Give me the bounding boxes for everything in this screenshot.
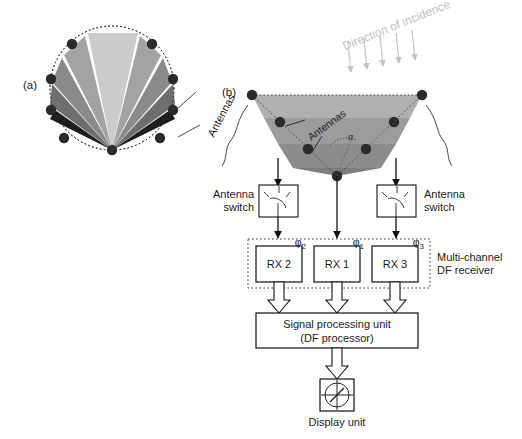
incidence-arrow	[380, 36, 383, 66]
signal-processing-label-line1: Signal processing unit	[256, 318, 418, 331]
antenna-dot	[107, 145, 117, 155]
signal-processing-label-line2: (DF processor)	[256, 332, 418, 345]
receiver-label-rx2: RX 2	[256, 258, 302, 271]
phase-subscript: 3	[419, 242, 423, 251]
incidence-arrow	[412, 30, 415, 60]
processor-to-display-arrow	[326, 348, 348, 379]
phase-subscript: 2	[301, 242, 305, 251]
figure-root: (a) (b) Antennas Antennas Direction of i…	[0, 0, 522, 439]
antenna-dot	[46, 105, 56, 115]
antenna-switch-left-box[interactable]	[259, 185, 298, 217]
antenna-dot	[46, 74, 56, 84]
alpha-angle-label: α	[348, 132, 353, 142]
antenna-dot	[168, 105, 178, 115]
antenna-dot	[303, 144, 313, 154]
antenna-dot	[389, 117, 399, 127]
antenna-dot	[361, 144, 371, 154]
display-unit-graphic[interactable]	[320, 379, 354, 411]
receiver-to-processor-arrows	[268, 282, 406, 313]
block-arrow	[268, 282, 290, 313]
receiver-label-rx3: RX 3	[372, 258, 418, 271]
antenna-switch-right-box[interactable]	[377, 185, 416, 217]
panel-a-tag: (a)	[23, 79, 37, 92]
antenna-switch-right-label: Antenna switch	[424, 188, 465, 213]
panel-a-graphic	[46, 26, 200, 155]
block-arrow	[384, 282, 406, 313]
panel-b-array-graphic	[247, 90, 427, 181]
antenna-dot	[275, 117, 285, 127]
antenna-switch-left-label: Antenna switch	[192, 188, 254, 213]
antennas-leader-lines-a	[178, 92, 200, 137]
antenna-switch-left[interactable]	[259, 185, 298, 217]
figure-vector-layer	[0, 0, 522, 439]
phase-subscript: 1	[359, 242, 363, 251]
block-arrow	[326, 282, 348, 313]
antenna-switch-right[interactable]	[377, 185, 416, 217]
df-receiver-group-label: Multi-channel DF receiver	[437, 251, 502, 276]
antenna-dot	[168, 74, 178, 84]
receiver-label-rx1: RX 1	[314, 258, 360, 271]
antenna-dot	[247, 90, 257, 100]
incidence-arrow	[396, 33, 399, 63]
antenna-dot	[155, 133, 165, 143]
display-unit-label: Display unit	[287, 416, 387, 429]
antenna-dot	[67, 39, 77, 49]
antenna-dot	[147, 39, 157, 49]
antenna-dot	[417, 90, 427, 100]
antenna-dot	[59, 133, 69, 143]
